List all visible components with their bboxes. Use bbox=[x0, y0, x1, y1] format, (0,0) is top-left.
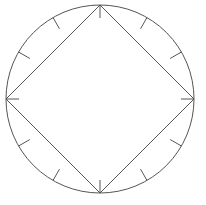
geometry-figure bbox=[0, 0, 206, 205]
figure-background bbox=[0, 0, 206, 205]
